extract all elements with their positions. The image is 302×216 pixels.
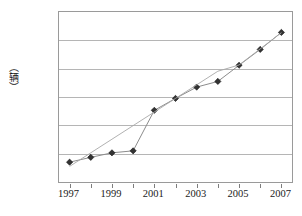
x-tick-mark [154,184,155,188]
x-tick-mark [112,184,113,188]
x-tick-mark [197,184,198,188]
plot-area [58,11,293,183]
x-tick-label: 1997 [58,188,79,199]
x-tick-label: 2007 [270,188,291,199]
x-tick-mark [281,184,282,188]
x-tick-mark [91,184,92,188]
data-point-marker [130,148,136,154]
data-point-marker [88,154,94,160]
x-tick-mark [133,184,134,188]
x-tick-mark [218,184,219,188]
data-series-layer [59,12,292,182]
x-tick-mark [176,184,177,188]
x-tick-label: 2005 [228,188,249,199]
data-point-marker [66,159,72,165]
x-tick-label: 2003 [185,188,206,199]
data-point-marker [109,150,115,156]
line-chart: （辆） 0100 000200 000300 000400 000500 000… [0,0,302,216]
x-tick-mark [70,184,71,188]
x-tick-mark [260,184,261,188]
x-tick-label: 2001 [143,188,164,199]
y-axis-title: （辆） [4,62,18,92]
x-tick-label: 1999 [100,188,121,199]
x-tick-mark [239,184,240,188]
